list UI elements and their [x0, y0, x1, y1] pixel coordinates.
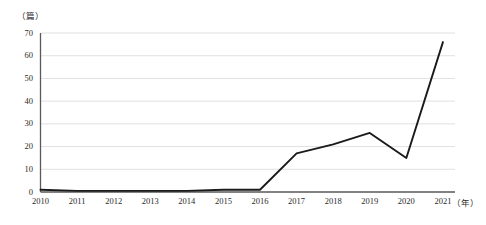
x-axis-tick-label: 2014: [167, 196, 207, 206]
x-axis-tick-label: 2020: [386, 196, 426, 206]
x-axis-tick-label: 2013: [130, 196, 170, 206]
x-axis-tick-label: 2017: [277, 196, 317, 206]
y-axis-tick-label: 10: [11, 164, 33, 174]
x-axis-tick-label: 2012: [94, 196, 134, 206]
data-series: [41, 42, 443, 191]
x-axis-tick-label: 2016: [240, 196, 280, 206]
line-chart: （篇） （年） 010203040506070 2010201120122013…: [0, 0, 486, 225]
axes: [41, 33, 456, 192]
y-axis-tick-label: 30: [11, 118, 33, 128]
y-axis-tick-label: 60: [11, 50, 33, 60]
x-axis-tick-label: 2021: [423, 196, 463, 206]
y-axis-tick-label: 50: [11, 73, 33, 83]
y-axis-tick-label: 70: [11, 28, 33, 38]
plot-area: [0, 0, 486, 225]
x-axis-tick-label: 2018: [313, 196, 353, 206]
x-axis-tick-label: 2011: [57, 196, 97, 206]
x-axis-tick-label: 2019: [350, 196, 390, 206]
y-axis-tick-label: 0: [11, 187, 33, 197]
x-axis-tick-label: 2015: [203, 196, 243, 206]
x-axis-tick-label: 2010: [21, 196, 61, 206]
series-line: [41, 42, 443, 191]
y-axis-tick-label: 20: [11, 141, 33, 151]
y-axis-tick-label: 40: [11, 96, 33, 106]
